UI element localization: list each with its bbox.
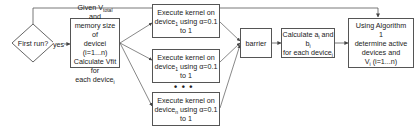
exec-box-n: Execute kernel on devicen using α=0.1 to…	[152, 92, 220, 126]
barrier-box: barrier	[240, 28, 272, 58]
join-arrow-2	[220, 43, 240, 62]
exec-box-1: Execute kernel on device1 using α=0.1 to…	[152, 4, 220, 38]
fan-arrow-1	[120, 23, 152, 43]
algorithm-box: Using Algorithm 1 determine active devic…	[348, 18, 414, 68]
yes-label: yes	[53, 40, 64, 49]
join-arrow-1	[220, 22, 240, 41]
fan-arrow-n	[120, 43, 152, 106]
exec-box-2: Execute kernel on device1 using α=0.1 to…	[152, 49, 220, 83]
join-arrow-n	[220, 45, 240, 108]
calc-box: Calculate ai and bi for each devicei	[281, 28, 335, 58]
ellipsis: • • •	[174, 82, 193, 92]
init-box: Given Vtotal and memory size of devicei …	[70, 18, 120, 68]
decision-label: First run?	[12, 39, 54, 48]
fan-arrow-2	[120, 43, 152, 60]
